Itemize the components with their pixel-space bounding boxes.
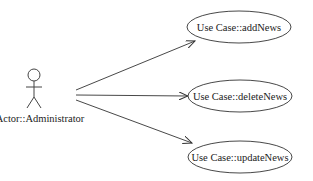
use-case-deleteNews[interactable]: Use Case::deleteNews bbox=[188, 80, 292, 112]
use-case-label: Use Case::deleteNews bbox=[193, 91, 287, 102]
actor-administrator[interactable]: Actor::Administrator bbox=[0, 69, 85, 124]
use-case-addNews[interactable]: Use Case::addNews bbox=[187, 11, 291, 43]
association-deleteNews bbox=[76, 95, 188, 96]
use-case-label: Use Case::addNews bbox=[197, 22, 281, 33]
associations bbox=[76, 41, 195, 143]
use-case-label: Use Case::updateNews bbox=[191, 152, 288, 163]
actor-label: Actor::Administrator bbox=[0, 113, 85, 124]
use-case-diagram: Actor::Administrator Use Case::addNews U… bbox=[0, 0, 313, 181]
use-case-updateNews[interactable]: Use Case::updateNews bbox=[188, 141, 292, 173]
association-updateNews bbox=[76, 100, 192, 143]
stick-figure-icon bbox=[26, 69, 42, 108]
association-addNews bbox=[76, 41, 195, 90]
